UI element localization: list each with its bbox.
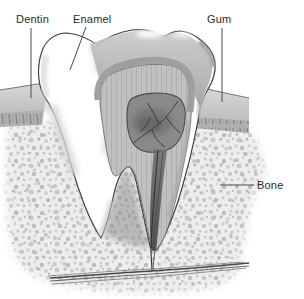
label-enamel: Enamel xyxy=(73,13,112,25)
tooth-illustration xyxy=(0,0,304,299)
gum-left xyxy=(0,83,47,127)
tooth-anatomy-figure: Dentin Enamel Gum Bone xyxy=(0,0,304,299)
label-gum: Gum xyxy=(207,13,231,25)
label-bone: Bone xyxy=(257,179,284,191)
label-dentin: Dentin xyxy=(16,13,49,25)
